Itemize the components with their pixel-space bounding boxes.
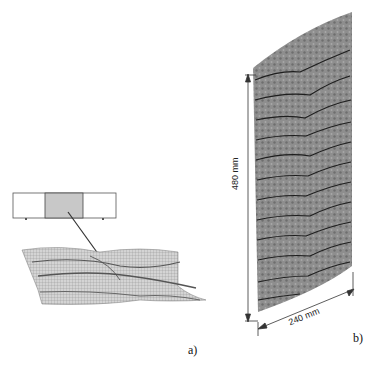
panel-b-label: b)	[353, 331, 363, 346]
height-dimension-label: 480 mm	[230, 157, 240, 190]
crack-surface-b	[253, 12, 352, 312]
crack-mesh-surface-a	[22, 247, 206, 304]
specimen-schematic	[13, 193, 116, 220]
panel-a-label: a)	[188, 343, 197, 358]
figure: 480 mm 240 mm a) b)	[0, 0, 372, 372]
